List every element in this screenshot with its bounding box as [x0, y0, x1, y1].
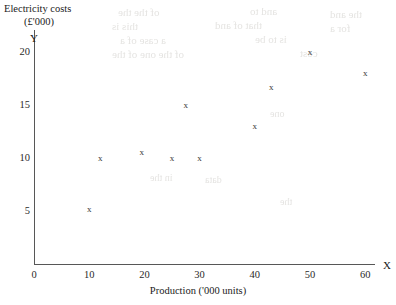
y-tick-label: 10 — [4, 153, 30, 164]
data-point-marker: x — [363, 69, 368, 78]
y-tick-label: 5 — [4, 206, 30, 217]
y-axis-line — [34, 30, 35, 265]
y-axis-title-line1: Electricity costs — [4, 3, 71, 14]
ghost-text-fragment: and to — [250, 5, 277, 17]
x-tick-label: 60 — [350, 270, 380, 281]
data-point-marker: x — [197, 154, 202, 163]
x-tick-label: 10 — [74, 270, 104, 281]
ghost-text-fragment: one — [270, 108, 284, 119]
x-axis-line — [34, 264, 375, 265]
data-point-marker: x — [269, 82, 274, 91]
x-tick-label: 20 — [129, 270, 159, 281]
data-point-marker: x — [308, 48, 313, 57]
data-point-marker: x — [139, 147, 144, 156]
ghost-text-fragment: the and — [330, 8, 362, 20]
ghost-text-fragment: data — [205, 174, 222, 185]
ghost-text-fragment: is to be — [255, 33, 287, 45]
x-tick-label: 40 — [240, 270, 270, 281]
ghost-text-fragment: the — [280, 196, 292, 207]
y-axis-title: Electricity costs (£'000) — [4, 2, 71, 28]
data-point-marker: x — [184, 101, 189, 110]
data-point-marker: x — [253, 122, 258, 131]
ghost-text-fragment: of the the — [118, 6, 160, 18]
x-tick-label: 30 — [185, 270, 215, 281]
data-point-marker: x — [98, 154, 103, 163]
ghost-text-fragment: for a — [330, 22, 350, 34]
ghost-text-fragment: in the — [150, 172, 173, 183]
ghost-text-fragment: a case of a — [120, 34, 166, 46]
scatter-chart: of the theand tothe andthis isthat of an… — [0, 0, 396, 305]
ghost-text-fragment: this is — [112, 20, 138, 32]
y-tick-label: 15 — [4, 100, 30, 111]
y-tick-label: 20 — [4, 47, 30, 58]
x-tick-label: 0 — [19, 270, 49, 281]
x-axis-letter: X — [383, 260, 391, 271]
data-point-marker: x — [170, 154, 175, 163]
y-axis-title-units: (£'000) — [4, 15, 71, 28]
y-axis-letter: Y — [30, 33, 38, 44]
x-axis-title: Production ('000 units) — [0, 285, 396, 296]
data-point-marker: x — [87, 204, 92, 213]
x-tick-label: 50 — [295, 270, 325, 281]
ghost-text-fragment: that of and — [215, 19, 262, 31]
ghost-text-fragment: of the one of the — [112, 48, 184, 60]
